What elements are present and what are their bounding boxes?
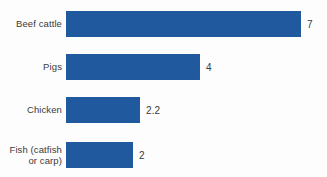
value-label-beef-cattle: 7 [301, 19, 313, 30]
bar-track-fish: 2 [66, 142, 327, 168]
chart-row-pigs: Pigs 4 [0, 54, 327, 80]
value-label-chicken: 2.2 [140, 105, 160, 116]
category-label-beef-cattle: Beef cattle [0, 18, 66, 30]
bar-pigs [66, 54, 200, 80]
bar-chart: Beef cattle 7 Pigs 4 Chicken 2.2 Fish (c… [0, 0, 327, 177]
value-label-pigs: 4 [200, 62, 212, 73]
chart-row-beef-cattle: Beef cattle 7 [0, 11, 327, 37]
chart-row-fish: Fish (catfish or carp) 2 [0, 142, 327, 168]
value-label-fish: 2 [133, 150, 145, 161]
bar-track-beef-cattle: 7 [66, 11, 327, 37]
bar-chicken [66, 97, 140, 123]
bar-track-pigs: 4 [66, 54, 327, 80]
category-label-chicken: Chicken [0, 104, 66, 116]
bar-beef-cattle [66, 11, 301, 37]
bar-track-chicken: 2.2 [66, 97, 327, 123]
chart-row-chicken: Chicken 2.2 [0, 97, 327, 123]
bar-fish [66, 142, 133, 168]
category-label-pigs: Pigs [0, 61, 66, 73]
category-label-fish: Fish (catfish or carp) [0, 144, 66, 166]
